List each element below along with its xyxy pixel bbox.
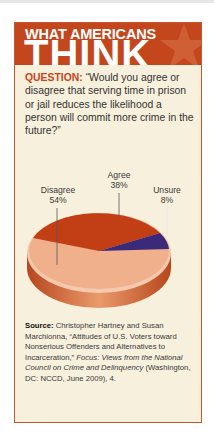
label-agree-pct: 38% [99, 180, 139, 190]
label-disagree: Disagree 54% [33, 185, 83, 205]
question-text: QUESTION: “Would you agree or disagree t… [25, 71, 195, 137]
what-americans-think-panel: THINK WHAT AMERICANS QUESTION: “Would yo… [14, 22, 202, 423]
source-citation: Source: Christopher Hartney and Susan Ma… [25, 321, 197, 385]
label-disagree-name: Disagree [33, 185, 83, 195]
question-label: QUESTION: [25, 72, 83, 83]
label-agree-name: Agree [99, 170, 139, 180]
label-agree: Agree 38% [99, 170, 139, 190]
source-label: Source: [25, 321, 54, 330]
label-disagree-pct: 54% [33, 195, 83, 205]
label-unsure-pct: 8% [147, 195, 187, 205]
label-unsure-name: Unsure [147, 185, 187, 195]
star-icon [159, 23, 201, 65]
label-unsure: Unsure 8% [147, 185, 187, 205]
pie-chart: Disagree 54% Agree 38% Unsure 8% [15, 163, 201, 313]
top-border [0, 0, 214, 3]
panel-header: THINK WHAT AMERICANS [15, 23, 201, 65]
header-kicker: WHAT AMERICANS [25, 26, 156, 42]
